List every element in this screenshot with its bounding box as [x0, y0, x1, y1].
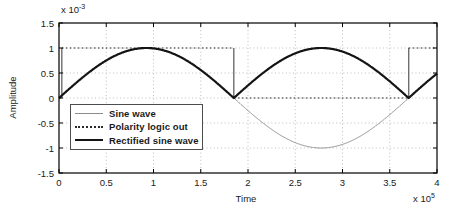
legend-label: Polarity logic out	[109, 121, 188, 132]
legend-item-polarity-logic-out: Polarity logic out	[75, 120, 198, 133]
legend-label: Rectified sine wave	[109, 135, 199, 146]
legend-label: Sine wave	[109, 108, 156, 119]
legend-box[interactable]: Sine wave Polarity logic out Rectified s…	[70, 104, 203, 150]
legend-item-rectified-sine-wave: Rectified sine wave	[75, 134, 198, 147]
sine-wave-line-sample	[75, 113, 103, 114]
polarity-logic-line-sample	[75, 126, 103, 128]
rectified-sine-line-sample	[75, 139, 103, 141]
plot-canvas	[0, 0, 457, 214]
legend-item-sine-wave: Sine wave	[75, 107, 198, 120]
figure-window: x 10-3 x 105 Time Amplitude 00.511.522.5…	[0, 0, 457, 214]
